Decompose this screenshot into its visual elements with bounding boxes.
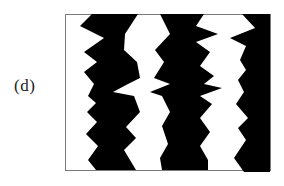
stripe-pattern-figure [0,0,284,186]
